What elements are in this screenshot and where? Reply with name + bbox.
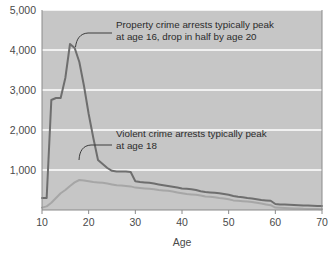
y-tick-labels-group: 1,0002,0003,0004,0005,000: [10, 4, 36, 176]
x-tick-label-50: 50: [223, 216, 235, 228]
y-tick-label-3000: 3,000: [10, 84, 36, 96]
property-annotation-line-1: Property crime arrests typically peak: [116, 19, 274, 30]
chart-canvas: 10203040506070 1,0002,0003,0004,0005,000…: [0, 0, 336, 255]
y-tick-label-1000: 1,000: [10, 164, 36, 176]
property-annotation-line-2: at age 16, drop in half by age 20: [116, 31, 257, 42]
x-tick-labels-group: 10203040506070: [36, 216, 328, 228]
crime-arrests-by-age-chart: 10203040506070 1,0002,0003,0004,0005,000…: [0, 0, 336, 255]
x-axis-title: Age: [173, 236, 192, 248]
violent-annotation-line-2: at age 18: [116, 140, 157, 151]
violent-annotation-line-1: Violent crime arrests typically peak: [116, 128, 267, 139]
x-tick-label-20: 20: [83, 216, 95, 228]
y-tick-label-2000: 2,000: [10, 124, 36, 136]
y-tick-label-4000: 4,000: [10, 44, 36, 56]
x-tick-label-10: 10: [36, 216, 48, 228]
x-tick-label-30: 30: [129, 216, 141, 228]
x-tick-label-70: 70: [316, 216, 328, 228]
x-tick-label-60: 60: [269, 216, 281, 228]
y-tick-label-5000: 5,000: [10, 4, 36, 16]
x-tick-label-40: 40: [176, 216, 188, 228]
